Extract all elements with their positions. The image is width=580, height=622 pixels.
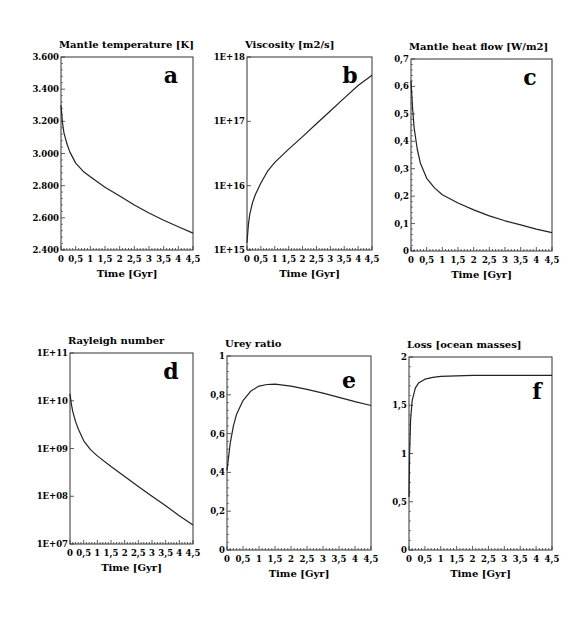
data-line — [411, 81, 552, 233]
x-tick-label: 0,5 — [76, 548, 91, 559]
chart-panel-b: Viscosity [m2/s]00,511,522,533,544,5Time… — [214, 39, 380, 279]
x-tick-label: 0 — [244, 254, 250, 264]
plot-frame — [409, 357, 552, 550]
x-tick-label: 1 — [439, 255, 445, 265]
x-tick-label: 1,5 — [281, 254, 296, 265]
x-tick-label: 4,5 — [186, 548, 201, 559]
y-tick-label: 1,5 — [392, 400, 407, 411]
panel-title: Viscosity [m2/s] — [244, 39, 334, 50]
y-tick-label: 3.400 — [32, 84, 59, 94]
x-tick-label: 0,5 — [236, 554, 251, 565]
panel-letter: b — [342, 62, 357, 88]
y-tick-label: 0,5 — [392, 497, 407, 508]
y-tick-label: 1E+18 — [214, 52, 245, 62]
x-tick-label: 0,5 — [253, 254, 268, 265]
x-tick-label: 2,5 — [481, 554, 496, 565]
x-tick-label: 4 — [175, 254, 181, 264]
y-tick-label: 2.400 — [32, 245, 59, 255]
y-tick-label: 1E+10 — [37, 396, 68, 406]
x-tick-label: 4,5 — [545, 255, 560, 266]
y-tick-label: 1E+15 — [214, 245, 245, 255]
y-tick-label: 0,5 — [394, 109, 409, 120]
x-tick-label: 1 — [256, 554, 262, 564]
panel-title: Rayleigh number — [68, 335, 165, 346]
y-tick-label: 0,2 — [210, 506, 225, 517]
y-tick-label: 0,3 — [394, 164, 409, 175]
y-tick-label: 1 — [219, 351, 225, 361]
x-tick-label: 1 — [272, 254, 278, 264]
x-tick-label: 1 — [94, 548, 100, 558]
x-tick-label: 0 — [67, 548, 73, 558]
y-tick-label: 0 — [219, 545, 225, 555]
x-tick-label: 1,5 — [104, 548, 119, 559]
y-tick-label: 0 — [401, 545, 407, 555]
x-tick-label: 2,5 — [131, 548, 146, 559]
panel-letter: e — [342, 367, 356, 393]
x-tick-label: 3 — [327, 254, 333, 264]
y-tick-label: 0,2 — [394, 191, 409, 202]
x-tick-label: 4,5 — [365, 254, 380, 265]
x-tick-label: 0 — [408, 255, 414, 265]
x-tick-label: 2 — [288, 554, 294, 564]
x-tick-label: 4,5 — [364, 554, 379, 565]
x-tick-label: 1,5 — [98, 254, 113, 265]
chart-panel-c: Mantle heat flow [W/m2]00,511,522,533,54… — [394, 41, 559, 280]
x-tick-label: 2 — [117, 254, 123, 264]
data-line — [61, 105, 193, 233]
x-tick-label: 2 — [122, 548, 128, 558]
y-tick-label: 3.600 — [32, 52, 59, 62]
panel-title: Loss [ocean masses] — [407, 339, 522, 350]
y-tick-label: 0 — [403, 246, 409, 256]
x-tick-label: 3,5 — [332, 554, 347, 565]
chart-panel-a: Mantle temperature [K]00,511,522,533,544… — [32, 39, 200, 279]
y-tick-label: 3.000 — [32, 149, 59, 159]
y-tick-label: 1E+16 — [214, 181, 245, 191]
x-axis-label: Time [Gyr] — [451, 269, 512, 280]
x-tick-label: 0 — [58, 254, 64, 264]
y-tick-label: 0,8 — [210, 390, 225, 401]
x-axis-label: Time [Gyr] — [97, 268, 158, 279]
panel-title: Urey ratio — [225, 338, 282, 349]
panel-letter: c — [523, 64, 536, 90]
x-tick-label: 1 — [438, 554, 444, 564]
y-tick-label: 0,6 — [394, 81, 409, 92]
x-tick-label: 3 — [501, 554, 507, 564]
y-tick-label: 0,1 — [394, 219, 409, 230]
chart-panel-d: Rayleigh number00,511,522,533,544,5Time … — [37, 335, 201, 573]
x-tick-label: 3,5 — [513, 554, 528, 565]
chart-panel-f: Loss [ocean masses]00,511,522,533,544,5T… — [392, 339, 559, 579]
y-tick-label: 1 — [401, 449, 407, 459]
y-tick-label: 3.200 — [32, 116, 59, 126]
data-line — [227, 384, 371, 470]
x-tick-label: 1 — [87, 254, 93, 264]
x-axis-label: Time [Gyr] — [450, 568, 511, 579]
x-tick-label: 3,5 — [513, 255, 528, 266]
x-axis-label: Time [Gyr] — [279, 268, 340, 279]
x-tick-label: 0,5 — [417, 554, 432, 565]
x-axis-label: Time [Gyr] — [269, 568, 330, 579]
data-line — [70, 394, 193, 525]
x-tick-label: 2,5 — [482, 255, 497, 266]
x-tick-label: 2,5 — [309, 254, 324, 265]
x-tick-label: 3,5 — [337, 254, 352, 265]
x-tick-label: 2,5 — [300, 554, 315, 565]
panel-letter: f — [532, 378, 543, 404]
x-tick-label: 4 — [533, 255, 539, 265]
x-tick-label: 0 — [224, 554, 230, 564]
x-tick-label: 2 — [470, 554, 476, 564]
x-tick-label: 3,5 — [158, 548, 173, 559]
x-tick-label: 2 — [300, 254, 306, 264]
x-tick-label: 4 — [355, 254, 361, 264]
y-tick-label: 1E+09 — [37, 444, 68, 454]
x-tick-label: 2 — [471, 255, 477, 265]
x-tick-label: 3 — [146, 254, 152, 264]
y-tick-label: 2 — [401, 352, 407, 362]
x-tick-label: 4 — [352, 554, 358, 564]
y-tick-label: 2.800 — [32, 181, 59, 191]
y-tick-label: 1E+11 — [37, 348, 68, 358]
x-tick-label: 4 — [533, 554, 539, 564]
panel-title: Mantle heat flow [W/m2] — [409, 41, 548, 52]
panel-title: Mantle temperature [K] — [59, 39, 194, 50]
x-tick-label: 4,5 — [186, 254, 201, 265]
x-tick-label: 1,5 — [268, 554, 283, 565]
